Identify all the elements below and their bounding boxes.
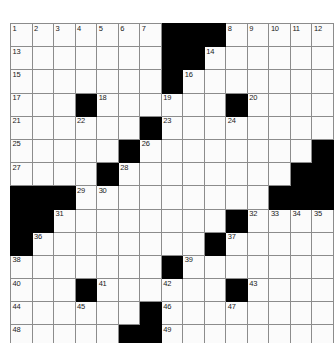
crossword-cell[interactable]: [32, 139, 54, 162]
crossword-cell[interactable]: [54, 302, 76, 325]
crossword-cell[interactable]: [140, 186, 162, 209]
crossword-cell[interactable]: [269, 255, 291, 278]
crossword-cell[interactable]: [54, 255, 76, 278]
crossword-cell[interactable]: [290, 302, 312, 325]
crossword-cell[interactable]: 45: [75, 302, 97, 325]
crossword-cell[interactable]: [226, 255, 248, 278]
crossword-cell[interactable]: [247, 70, 269, 93]
crossword-cell[interactable]: [118, 232, 140, 255]
crossword-cell[interactable]: [54, 93, 76, 116]
crossword-cell[interactable]: 46: [161, 302, 183, 325]
crossword-grid[interactable]: 1234567891011121314151617181920212223242…: [10, 23, 334, 343]
crossword-cell[interactable]: [247, 302, 269, 325]
crossword-cell[interactable]: 23: [161, 116, 183, 139]
crossword-cell[interactable]: [32, 325, 54, 343]
crossword-cell[interactable]: [97, 70, 119, 93]
crossword-cell[interactable]: [269, 93, 291, 116]
crossword-cell[interactable]: [140, 93, 162, 116]
crossword-cell[interactable]: [118, 47, 140, 70]
crossword-cell[interactable]: [290, 70, 312, 93]
crossword-cell[interactable]: [204, 186, 226, 209]
crossword-cell[interactable]: 49: [161, 325, 183, 343]
crossword-cell[interactable]: 14: [204, 47, 226, 70]
crossword-cell[interactable]: [247, 163, 269, 186]
crossword-cell[interactable]: [54, 163, 76, 186]
crossword-cell[interactable]: [32, 93, 54, 116]
crossword-cell[interactable]: 31: [54, 209, 76, 232]
crossword-cell[interactable]: [97, 139, 119, 162]
crossword-cell[interactable]: 4: [75, 24, 97, 47]
crossword-cell[interactable]: [32, 70, 54, 93]
crossword-cell[interactable]: 35: [312, 209, 334, 232]
crossword-cell[interactable]: 24: [226, 116, 248, 139]
crossword-cell[interactable]: [118, 70, 140, 93]
crossword-cell[interactable]: 2: [32, 24, 54, 47]
crossword-cell[interactable]: [269, 302, 291, 325]
crossword-cell[interactable]: [97, 209, 119, 232]
crossword-cell[interactable]: [204, 302, 226, 325]
crossword-cell[interactable]: 47: [226, 302, 248, 325]
crossword-cell[interactable]: [226, 163, 248, 186]
crossword-cell[interactable]: [183, 209, 205, 232]
crossword-cell[interactable]: 18: [97, 93, 119, 116]
crossword-cell[interactable]: [247, 47, 269, 70]
crossword-cell[interactable]: [161, 186, 183, 209]
crossword-cell[interactable]: [183, 325, 205, 343]
crossword-cell[interactable]: 25: [11, 139, 33, 162]
crossword-cell[interactable]: [118, 186, 140, 209]
crossword-cell[interactable]: [269, 70, 291, 93]
crossword-cell[interactable]: 17: [11, 93, 33, 116]
crossword-cell[interactable]: [290, 232, 312, 255]
crossword-cell[interactable]: 10: [269, 24, 291, 47]
crossword-cell[interactable]: 6: [118, 24, 140, 47]
crossword-cell[interactable]: [97, 302, 119, 325]
crossword-cell[interactable]: 21: [11, 116, 33, 139]
crossword-cell[interactable]: 43: [247, 279, 269, 302]
crossword-cell[interactable]: [140, 47, 162, 70]
crossword-cell[interactable]: [140, 279, 162, 302]
crossword-cell[interactable]: [75, 232, 97, 255]
crossword-cell[interactable]: [183, 279, 205, 302]
crossword-cell[interactable]: [97, 47, 119, 70]
crossword-cell[interactable]: 12: [312, 24, 334, 47]
crossword-cell[interactable]: 22: [75, 116, 97, 139]
crossword-cell[interactable]: [54, 232, 76, 255]
crossword-cell[interactable]: [54, 116, 76, 139]
crossword-cell[interactable]: [204, 325, 226, 343]
crossword-cell[interactable]: [226, 186, 248, 209]
crossword-cell[interactable]: 33: [269, 209, 291, 232]
crossword-cell[interactable]: [269, 163, 291, 186]
crossword-cell[interactable]: [247, 232, 269, 255]
crossword-cell[interactable]: [75, 47, 97, 70]
crossword-cell[interactable]: [269, 47, 291, 70]
crossword-cell[interactable]: [247, 255, 269, 278]
crossword-cell[interactable]: [312, 302, 334, 325]
crossword-cell[interactable]: 40: [11, 279, 33, 302]
crossword-cell[interactable]: [54, 139, 76, 162]
crossword-cell[interactable]: 11: [290, 24, 312, 47]
crossword-cell[interactable]: [247, 325, 269, 343]
crossword-cell[interactable]: [312, 93, 334, 116]
crossword-cell[interactable]: [269, 139, 291, 162]
crossword-cell[interactable]: [140, 70, 162, 93]
crossword-cell[interactable]: [118, 116, 140, 139]
crossword-cell[interactable]: [269, 279, 291, 302]
crossword-cell[interactable]: [312, 47, 334, 70]
crossword-cell[interactable]: [269, 116, 291, 139]
crossword-cell[interactable]: [204, 93, 226, 116]
crossword-cell[interactable]: [183, 232, 205, 255]
crossword-cell[interactable]: [226, 47, 248, 70]
crossword-cell[interactable]: 13: [11, 47, 33, 70]
crossword-cell[interactable]: [54, 279, 76, 302]
crossword-cell[interactable]: 8: [226, 24, 248, 47]
crossword-cell[interactable]: [161, 139, 183, 162]
crossword-cell[interactable]: 32: [247, 209, 269, 232]
crossword-cell[interactable]: [97, 255, 119, 278]
crossword-cell[interactable]: [97, 116, 119, 139]
crossword-cell[interactable]: 39: [183, 255, 205, 278]
crossword-cell[interactable]: [312, 279, 334, 302]
crossword-cell[interactable]: 30: [97, 186, 119, 209]
crossword-cell[interactable]: [118, 279, 140, 302]
crossword-cell[interactable]: [75, 325, 97, 343]
crossword-cell[interactable]: [54, 70, 76, 93]
